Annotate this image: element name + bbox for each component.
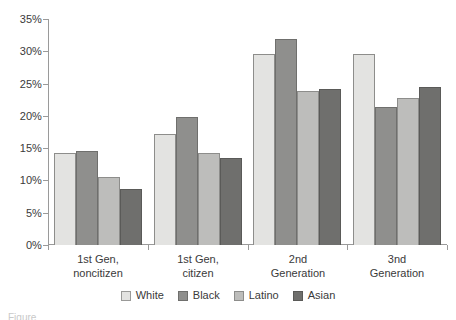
legend-swatch-asian — [293, 291, 303, 301]
x-axis-tick — [447, 245, 448, 250]
bar-group-1st-gen-noncitizen — [54, 19, 142, 245]
x-axis-label-line: 3nd — [347, 252, 447, 266]
x-axis-label-line: 2nd — [248, 252, 348, 266]
y-axis-tick-label-5: 5% — [2, 208, 42, 219]
x-axis-tick — [148, 245, 149, 250]
figure-caption: Figure — [8, 313, 208, 320]
legend-label-asian: Asian — [308, 290, 336, 301]
legend-item-white[interactable]: White — [121, 290, 164, 301]
bar-1st-gen-citizen-black — [176, 117, 198, 245]
y-axis-tick-label-35: 35% — [2, 14, 42, 25]
legend-item-black[interactable]: Black — [178, 290, 220, 301]
legend-swatch-latino — [234, 291, 244, 301]
y-axis-tick-label-0: 0% — [2, 240, 42, 251]
legend-label-white: White — [136, 290, 164, 301]
bar-3nd-generation-latino — [397, 98, 419, 245]
y-axis-tick-label-20: 20% — [2, 111, 42, 122]
x-axis-label-line: Generation — [347, 266, 447, 280]
bar-1st-gen-noncitizen-asian — [120, 189, 142, 245]
x-axis-labels: 1st Gen,noncitizen1st Gen,citizen2ndGene… — [48, 252, 447, 286]
bar-1st-gen-noncitizen-black — [76, 151, 98, 245]
bar-1st-gen-noncitizen-latino — [98, 177, 120, 245]
bar-3nd-generation-black — [375, 107, 397, 245]
plot-area: 0%5%10%15%20%25%30%35% 1st Gen,noncitize… — [0, 0, 456, 258]
bar-1st-gen-noncitizen-white — [54, 153, 76, 245]
x-axis-label-line: noncitizen — [48, 266, 148, 280]
bar-group-2nd-generation — [253, 19, 341, 245]
bar-chart-figure: 0%5%10%15%20%25%30%35% 1st Gen,noncitize… — [0, 0, 456, 320]
x-axis-label-line: Generation — [248, 266, 348, 280]
x-axis-label-line: 1st Gen, — [148, 252, 248, 266]
legend-item-asian[interactable]: Asian — [293, 290, 336, 301]
x-axis-label-2nd-generation: 2ndGeneration — [248, 252, 348, 280]
x-axis-label-line: citizen — [148, 266, 248, 280]
bar-2nd-generation-white — [253, 54, 275, 245]
bar-2nd-generation-latino — [297, 91, 319, 245]
bar-2nd-generation-black — [275, 39, 297, 245]
x-axis-label-1st-gen-noncitizen: 1st Gen,noncitizen — [48, 252, 148, 280]
legend-label-black: Black — [193, 290, 220, 301]
bar-group-1st-gen-citizen — [154, 19, 242, 245]
x-axis-tick — [48, 245, 49, 250]
legend-label-latino: Latino — [249, 290, 279, 301]
legend-swatch-black — [178, 291, 188, 301]
bar-1st-gen-citizen-asian — [220, 158, 242, 245]
bar-group-3nd-generation — [353, 19, 441, 245]
x-axis-label-line: 1st Gen, — [48, 252, 148, 266]
chart-legend: WhiteBlackLatinoAsian — [0, 290, 456, 301]
legend-item-latino[interactable]: Latino — [234, 290, 279, 301]
y-axis-tick-label-25: 25% — [2, 79, 42, 90]
x-axis-tick — [248, 245, 249, 250]
y-axis-tick-label-15: 15% — [2, 143, 42, 154]
x-axis-label-3nd-generation: 3ndGeneration — [347, 252, 447, 280]
bar-groups — [48, 19, 447, 245]
y-axis-tick-label-10: 10% — [2, 175, 42, 186]
legend-swatch-white — [121, 291, 131, 301]
bar-1st-gen-citizen-white — [154, 134, 176, 245]
bar-3nd-generation-white — [353, 54, 375, 245]
y-axis-tick-label-30: 30% — [2, 46, 42, 57]
x-axis-tick — [347, 245, 348, 250]
bar-1st-gen-citizen-latino — [198, 153, 220, 245]
bar-3nd-generation-asian — [419, 87, 441, 245]
bar-2nd-generation-asian — [319, 89, 341, 245]
x-axis-label-1st-gen-citizen: 1st Gen,citizen — [148, 252, 248, 280]
